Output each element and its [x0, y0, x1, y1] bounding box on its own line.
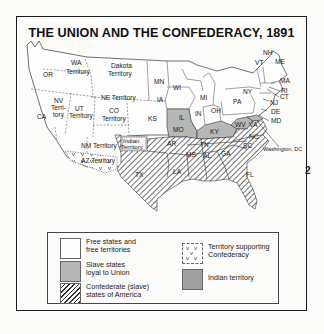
label-ct: CT [280, 93, 289, 100]
slave-union-swatch [60, 261, 81, 282]
label-ia: IA [157, 96, 164, 103]
label-sc: SC [243, 142, 252, 149]
label-ar: AR [167, 140, 176, 147]
label-de: DE [271, 108, 281, 115]
map-frame: THE UNION AND THE CONFEDERACY, 1891 v [16, 16, 307, 311]
legend-item-confederate: Confederate (slave) states of America [60, 283, 166, 304]
label-me: ME [275, 58, 285, 65]
label-co-sub: Territory [102, 115, 127, 123]
legend-label: Slave states loyal to Union [86, 261, 166, 277]
label-or: OR [43, 71, 53, 78]
label-vt: VT [255, 59, 263, 66]
indian-territory-swatch [182, 269, 203, 290]
label-az: AZ Territory [81, 157, 116, 165]
label-nj: NJ [270, 99, 278, 106]
label-dakota-sub: Territory [108, 70, 133, 78]
us-map: v [17, 17, 306, 232]
label-ga: GA [221, 150, 231, 157]
label-nv2: Terri- [51, 104, 66, 111]
legend-label: Free states and free territories [86, 238, 166, 254]
label-fl: FL [246, 171, 254, 178]
label-wa-sub: Territory [66, 68, 91, 76]
label-ny: NY [243, 88, 253, 95]
label-ks: KS [148, 115, 157, 122]
legend-item-indian-territory: Indian territory [182, 269, 298, 290]
legend-label: Indian territory [208, 274, 298, 282]
label-ut-sub: Territory [69, 112, 94, 120]
legend-label: Confederate (slave) states of America [86, 283, 166, 299]
label-nh: NH [263, 49, 273, 56]
legend-item-slave-union: Slave states loyal to Union [60, 261, 166, 282]
confederate-hatch-swatch [60, 283, 81, 304]
label-mn: MN [154, 78, 164, 85]
label-pa: PA [233, 98, 242, 105]
label-wv: WV [235, 121, 246, 128]
label-va: VA [249, 121, 258, 128]
label-ma: MA [280, 77, 290, 84]
territory-confederacy-swatch: vv v vv [182, 243, 203, 264]
label-la: LA [173, 168, 182, 175]
label-al: AL [203, 152, 211, 159]
label-wa: WA [71, 59, 82, 66]
stray-mark: 2 [305, 165, 311, 176]
label-md: MD [271, 117, 281, 124]
label-wi: WI [173, 84, 181, 91]
label-in: IN [195, 110, 202, 117]
label-ut: UT [75, 105, 84, 112]
label-oh: OH [211, 107, 221, 114]
legend-label: Territory supporting Confederacy [208, 243, 298, 259]
label-mo: MO [173, 126, 184, 133]
label-ky: KY [210, 128, 219, 135]
label-nv1: NV [54, 97, 64, 104]
label-ms: MS [186, 151, 196, 158]
legend-item-territory-confederacy: vv v vv Territory supporting Confederacy [182, 243, 298, 264]
label-ca: CA [37, 113, 47, 120]
label-co: CO [109, 107, 119, 114]
map-legend: Free states and free territories Slave s… [47, 232, 279, 304]
legend-item-free: Free states and free territories [60, 238, 166, 259]
label-nv3: tory [53, 111, 65, 119]
label-mi: MI [200, 94, 207, 101]
label-ne: NE Territory [101, 94, 136, 102]
free-swatch [60, 238, 81, 259]
label-tx: TX [135, 171, 144, 178]
label-tn: TN [200, 141, 209, 148]
label-dakota: Dakota [111, 62, 132, 69]
label-washington-dc: Washington, DC [263, 146, 302, 152]
label-indian-sub: Territory [121, 144, 143, 150]
label-nc: NC [249, 133, 259, 140]
label-nm: NM Territory [81, 142, 117, 150]
label-il: IL [179, 114, 185, 121]
